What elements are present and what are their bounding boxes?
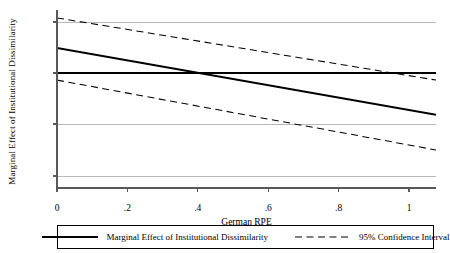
legend-item-marginal-effect: Marginal Effect of Institutional Dissimi… [41,232,268,242]
plot-area: 0 .2 .4 .6 .8 1 German RPE [57,12,436,188]
x-tick-label-1: .2 [112,204,142,214]
x-tick-label-2: .4 [183,204,213,214]
legend-solid-line-swatch [41,232,99,242]
y-axis-title: Marginal Effect of Institutional Dissimi… [8,2,17,202]
axis-spines [57,12,436,188]
legend-dashed-line-swatch [294,232,352,242]
legend-label-confidence-interval: 95% Confidence Interval [359,233,449,242]
x-tick-label-4: .8 [324,204,354,214]
x-tick-label-0: 0 [42,204,72,214]
x-tick-label-5: 1 [394,204,424,214]
chart-legend: Marginal Effect of Institutional Dissimi… [57,225,434,249]
x-tick-label-3: .6 [253,204,283,214]
legend-item-confidence-interval: 95% Confidence Interval [294,232,449,242]
legend-label-marginal-effect: Marginal Effect of Institutional Dissimi… [106,233,268,242]
